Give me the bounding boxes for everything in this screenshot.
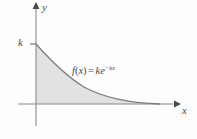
x-axis-arrowhead [174, 101, 181, 108]
y-axis-label: y [42, 2, 47, 13]
y-intercept-label: k [18, 37, 23, 48]
y-axis-arrowhead [33, 2, 40, 9]
function-equation-label: f(x)=ke−kx [72, 66, 115, 77]
x-axis-label: x [182, 105, 187, 116]
exponential-decay-figure: y x k f(x)=ke−kx [0, 0, 197, 139]
exponent: −kx [105, 64, 115, 71]
exponent-variable: x [112, 64, 115, 71]
equals-sign: = [87, 65, 96, 76]
